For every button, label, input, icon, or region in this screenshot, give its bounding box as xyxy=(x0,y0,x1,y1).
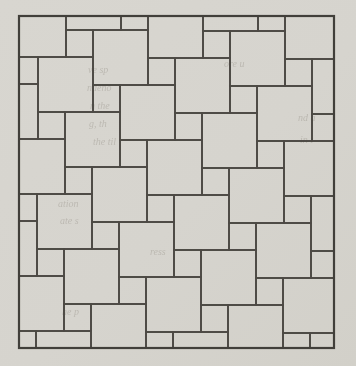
small-square-tile xyxy=(65,167,92,194)
small-square-tile xyxy=(64,304,91,331)
large-square-tile xyxy=(230,31,285,86)
large-square-tile xyxy=(283,278,334,333)
small-square-tile xyxy=(312,114,334,141)
small-square-tile xyxy=(146,332,173,348)
large-square-tile xyxy=(19,276,64,331)
large-square-tile xyxy=(201,250,256,305)
large-square-tile xyxy=(119,222,174,277)
small-square-tile xyxy=(19,57,38,84)
small-square-tile xyxy=(257,141,284,168)
figure-border xyxy=(19,16,334,348)
small-square-tile xyxy=(147,195,174,222)
large-square-tile xyxy=(93,30,148,85)
large-square-tile xyxy=(65,112,120,167)
large-square-tile xyxy=(120,85,175,140)
small-square-tile xyxy=(203,31,230,58)
large-square-tile xyxy=(312,59,334,114)
small-square-tile xyxy=(93,85,120,112)
large-square-tile xyxy=(147,140,202,195)
large-square-tile xyxy=(92,167,147,222)
small-square-tile xyxy=(66,30,93,57)
small-square-tile xyxy=(311,251,334,278)
large-square-tile xyxy=(310,333,334,348)
small-square-tile xyxy=(148,58,175,85)
large-square-tile xyxy=(19,84,38,139)
large-square-tile xyxy=(19,16,66,57)
large-square-tile xyxy=(19,221,37,276)
pinwheel-tiling-figure xyxy=(0,0,356,366)
small-square-tile xyxy=(19,194,37,221)
small-square-tile xyxy=(201,305,228,332)
large-square-tile xyxy=(311,196,334,251)
small-square-tile xyxy=(19,331,36,348)
large-square-tile xyxy=(19,139,65,194)
small-square-tile xyxy=(121,16,148,30)
large-square-tile xyxy=(38,57,93,112)
small-square-tile xyxy=(202,168,229,195)
large-square-tile xyxy=(285,16,334,59)
large-square-tile xyxy=(91,304,146,348)
large-square-tile xyxy=(66,16,121,30)
small-square-tile xyxy=(37,249,64,276)
small-square-tile xyxy=(230,86,257,113)
small-square-tile xyxy=(174,250,201,277)
small-square-tile xyxy=(120,140,147,167)
large-square-tile xyxy=(37,194,92,249)
large-square-tile xyxy=(256,223,311,278)
small-square-tile xyxy=(175,113,202,140)
small-square-tile xyxy=(92,222,119,249)
small-square-tile xyxy=(284,196,311,223)
large-square-tile xyxy=(173,332,228,348)
large-square-tile xyxy=(174,195,229,250)
large-square-tile xyxy=(203,16,258,31)
large-square-tile xyxy=(36,331,91,348)
small-square-tile xyxy=(283,333,310,348)
large-square-tile xyxy=(148,16,203,58)
small-square-tile xyxy=(256,278,283,305)
small-square-tile xyxy=(38,112,65,139)
large-square-tile xyxy=(175,58,230,113)
large-square-tile xyxy=(228,305,283,348)
scanned-page: ve spndenon theg, ththe tilore und ain t… xyxy=(0,0,356,366)
large-square-tile xyxy=(257,86,312,141)
small-square-tile xyxy=(119,277,146,304)
large-square-tile xyxy=(64,249,119,304)
small-square-tile xyxy=(258,16,285,31)
small-square-tile xyxy=(229,223,256,250)
large-square-tile xyxy=(146,277,201,332)
large-square-tile xyxy=(229,168,284,223)
large-square-tile xyxy=(284,141,334,196)
large-square-tile xyxy=(202,113,257,168)
small-square-tile xyxy=(285,59,312,86)
